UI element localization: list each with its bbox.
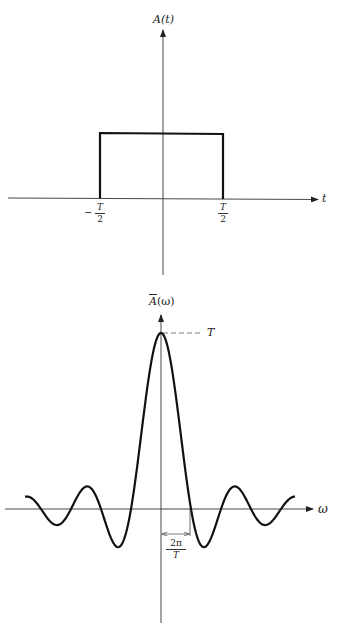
pulse-plot <box>8 30 318 275</box>
left-tick-sign: − <box>84 207 92 218</box>
left-tick-num: T <box>97 203 103 212</box>
bottom-x-axis-label: ω <box>318 503 328 515</box>
figure-canvas <box>0 0 342 627</box>
dimension-den: T <box>173 551 179 560</box>
sinc-curve <box>25 333 295 547</box>
bottom-y-axis-label: A(ω) <box>149 296 175 307</box>
rectangular-pulse <box>100 133 223 199</box>
top-x-axis-label: t <box>322 193 326 204</box>
bottom-y-label-base: A <box>149 295 157 308</box>
left-tick-label: T 2 <box>95 203 105 224</box>
right-tick-den: 2 <box>220 215 226 224</box>
dimension-label: 2π T <box>166 539 186 560</box>
left-tick-den: 2 <box>97 215 103 224</box>
right-tick-label: T 2 <box>218 203 228 224</box>
dimension-num: 2π <box>170 539 182 548</box>
peak-value-label: T <box>207 327 214 338</box>
top-y-axis-label: A(t) <box>153 14 174 25</box>
spectrum-plot <box>5 315 313 623</box>
right-tick-num: T <box>220 203 226 212</box>
bottom-y-label-arg: (ω) <box>157 295 175 308</box>
